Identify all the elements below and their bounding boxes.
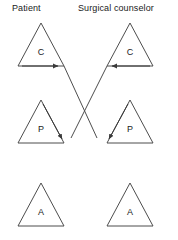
triangle-left-a-label: A — [38, 207, 44, 217]
triangle-right-c — [107, 23, 153, 66]
triangle-right-p — [107, 100, 153, 143]
triangle-group-right-a: A — [107, 183, 153, 226]
triangle-right-a-label: A — [127, 207, 133, 217]
diagram-canvas: C C P P A — [0, 0, 178, 240]
triangle-right-c-label: C — [127, 47, 134, 57]
cross-line-right-to-left — [71, 66, 107, 138]
triangle-left-c-label: C — [38, 47, 45, 57]
triangle-right-a — [107, 183, 153, 226]
triangle-right-p-label: P — [127, 124, 133, 134]
triangle-left-p — [18, 100, 64, 143]
triangle-left-c — [18, 23, 64, 66]
triangle-group-left-a: A — [18, 183, 64, 226]
triangle-left-a — [18, 183, 64, 226]
triangle-group-left-c: C — [18, 23, 64, 66]
triangle-group-right-p: P — [107, 100, 153, 143]
cross-line-left-to-right — [64, 66, 97, 138]
triangle-group-left-p: P — [18, 100, 64, 143]
down-right-arrow-icon — [43, 104, 62, 139]
triangle-group-right-c: C — [107, 23, 153, 66]
ego-state-transaction-diagram: Patient Surgical counselor C C — [0, 0, 178, 240]
triangle-left-p-label: P — [38, 124, 44, 134]
down-left-arrow-icon — [109, 104, 128, 139]
